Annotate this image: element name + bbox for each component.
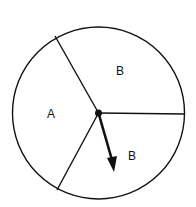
pointer-arrow-shaft [99, 113, 113, 160]
section-label-upper-b: B [116, 64, 124, 78]
divider-lower-left [57, 113, 99, 190]
section-label-a: A [47, 107, 55, 121]
pointer-arrow-head [107, 156, 117, 172]
spinner-diagram: B A B [0, 0, 196, 207]
divider-upper-left [55, 36, 99, 113]
pivot-dot [95, 110, 102, 117]
section-label-lower-b: B [128, 149, 136, 163]
divider-right [99, 113, 185, 114]
